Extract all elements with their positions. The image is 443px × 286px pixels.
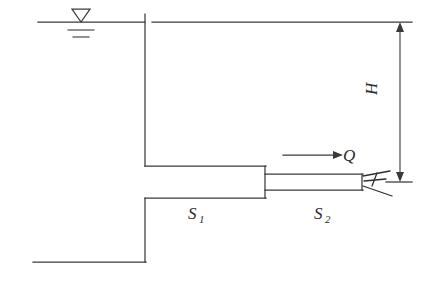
discharge-label: Q — [343, 146, 355, 165]
pipe1-label: S — [188, 204, 197, 223]
water-level-triangle-icon — [72, 9, 90, 22]
hydraulics-diagram: Q H S 1 S 2 — [0, 0, 443, 286]
head-label: H — [362, 81, 381, 96]
pipe1-label-subscript: 1 — [199, 213, 205, 225]
pipe2-label-subscript: 2 — [325, 213, 331, 225]
head-dimension-arrow-top-icon — [396, 22, 404, 32]
diagram-canvas: Q H S 1 S 2 — [0, 0, 443, 286]
flow-arrow-head-icon — [333, 151, 343, 159]
head-dimension-arrow-bottom-icon — [396, 172, 404, 182]
jet-line-lower — [363, 186, 392, 196]
pipe2-label: S — [314, 204, 323, 223]
